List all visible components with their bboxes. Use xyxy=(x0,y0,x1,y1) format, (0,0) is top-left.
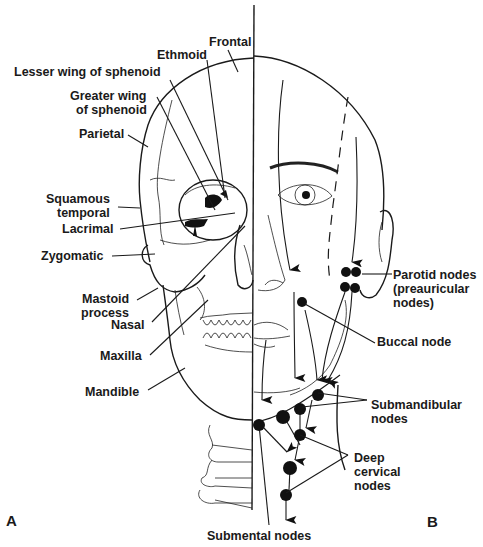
deep-cervical-node xyxy=(283,461,297,475)
label-submandibular-nodes-1: Submandibular xyxy=(371,398,462,412)
label-parotid-nodes-2: (preauricular xyxy=(393,282,470,296)
submental-node xyxy=(253,419,265,431)
parotid-node xyxy=(351,267,361,277)
label-squamous-temporal-2: temporal xyxy=(57,206,110,220)
label-greater-wing-sphenoid-2: of sphenoid xyxy=(76,103,147,117)
label-parietal: Parietal xyxy=(79,127,124,141)
label-deep-cervical-nodes-3: nodes xyxy=(354,479,391,493)
label-lacrimal: Lacrimal xyxy=(62,222,113,236)
anatomy-figure: Frontal Ethmoid Lesser wing of sphenoid … xyxy=(0,0,483,547)
lymph-nodes xyxy=(253,267,361,501)
label-submandibular-nodes-2: nodes xyxy=(371,412,408,426)
label-deep-cervical-nodes-1: Deep xyxy=(354,451,385,465)
submandibular-node xyxy=(276,410,290,424)
label-greater-wing-sphenoid-1: Greater wing xyxy=(70,89,146,103)
label-frontal: Frontal xyxy=(209,35,251,49)
midline-divider xyxy=(252,5,254,510)
panel-label-a: A xyxy=(6,512,17,529)
panel-label-b: B xyxy=(427,513,438,530)
label-mastoid-process-1: Mastoid xyxy=(82,292,129,306)
label-ethmoid: Ethmoid xyxy=(157,48,207,62)
skull-drawing xyxy=(139,58,254,508)
label-lesser-wing-sphenoid: Lesser wing of sphenoid xyxy=(14,65,161,79)
parotid-node xyxy=(350,283,360,293)
bone-labels: Frontal Ethmoid Lesser wing of sphenoid … xyxy=(14,35,251,399)
submandibular-node xyxy=(294,403,306,415)
diagram-canvas: Frontal Ethmoid Lesser wing of sphenoid … xyxy=(0,0,483,547)
label-mandible: Mandible xyxy=(85,385,139,399)
label-parotid-nodes-1: Parotid nodes xyxy=(393,268,476,282)
label-parotid-nodes-3: nodes) xyxy=(393,296,434,310)
label-zygomatic: Zygomatic xyxy=(41,249,104,263)
parotid-node xyxy=(340,282,350,292)
buccal-node xyxy=(297,297,307,307)
node-labels: Parotid nodes (preauricular nodes) Bucca… xyxy=(207,268,476,543)
parotid-node xyxy=(341,267,351,277)
label-nasal: Nasal xyxy=(111,318,144,332)
label-maxilla: Maxilla xyxy=(100,349,143,363)
label-buccal-node: Buccal node xyxy=(377,335,451,349)
label-squamous-temporal-1: Squamous xyxy=(46,192,110,206)
label-submental-nodes: Submental nodes xyxy=(207,529,311,543)
label-deep-cervical-nodes-2: cervical xyxy=(354,465,401,479)
submandibular-node xyxy=(312,389,324,401)
